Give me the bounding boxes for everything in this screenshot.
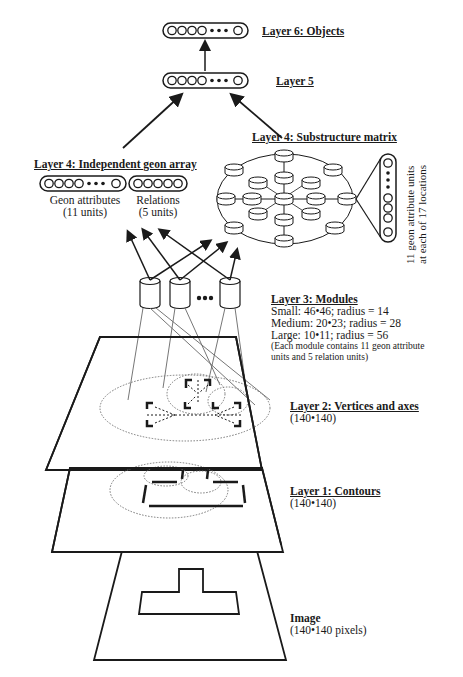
image-label: Image (140•140 pixels) <box>290 612 367 636</box>
layer6-label: Layer 6: Objects <box>262 25 344 37</box>
layer6-unit-bank <box>163 23 248 38</box>
geon-attributes-caption: Geon attributes (11 units) <box>45 194 125 218</box>
layer1-plane <box>46 337 283 552</box>
layer4-independent-label: Layer 4: Independent geon array <box>34 158 197 170</box>
arrow-independent-to-layer5 <box>123 95 181 148</box>
layer3-label: Layer 3: Modules Small: 46•46; radius = … <box>271 293 424 363</box>
layer2-label: Layer 2: Vertices and axes (140•140) <box>290 400 419 424</box>
layer1-label: Layer 1: Contours (140•140) <box>290 485 381 509</box>
layer5-unit-bank <box>163 73 248 88</box>
substructure-note: 11 geon attribute units at each of 17 lo… <box>404 165 428 264</box>
substructure-matrix <box>217 150 396 247</box>
receptive-field-lines <box>128 308 270 405</box>
geon-attributes-unit-bank <box>40 176 126 191</box>
module-cylinders <box>140 278 240 309</box>
image-plane <box>52 468 286 660</box>
layer5-label: Layer 5 <box>276 75 314 87</box>
relations-unit-bank <box>129 176 187 191</box>
relations-caption: Relations (5 units) <box>129 194 187 218</box>
layer2-plane <box>46 337 270 470</box>
module-output-arrows <box>128 230 237 280</box>
t-shape-object <box>139 569 239 614</box>
layer4-substructure-label: Layer 4: Substructure matrix <box>252 131 397 143</box>
